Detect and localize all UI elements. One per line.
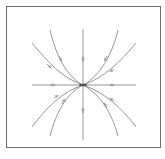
trajectory-lower-left-outer: [32, 85, 83, 127]
trajectory-lower-right-outer: [83, 85, 136, 127]
trajectory-upper-right-outer: [83, 43, 136, 85]
arrow-icon: [54, 96, 57, 98]
trajectory-upper-left-outer: [32, 43, 83, 85]
arrow-icon: [111, 69, 114, 71]
arrow-icon: [47, 64, 50, 67]
caption-fragment: ·: [100, 151, 101, 156]
phase-portrait: [0, 0, 165, 159]
caption-fragment: ·: [64, 151, 65, 156]
equilibrium-point: [79, 84, 87, 86]
